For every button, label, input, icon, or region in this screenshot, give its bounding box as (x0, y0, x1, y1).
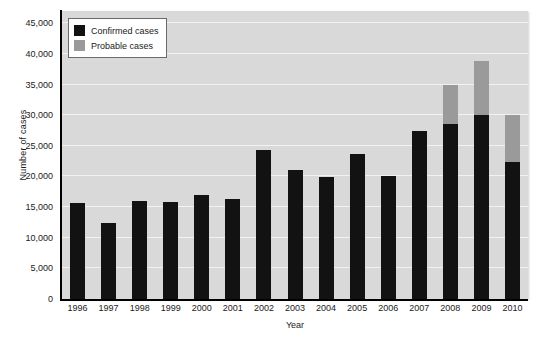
x-tick-label: 2001 (223, 303, 243, 313)
bar-segment-confirmed (163, 202, 178, 299)
bar-2006 (381, 176, 396, 299)
bar-2010 (505, 115, 520, 299)
bar-1998 (132, 201, 147, 299)
y-tick-label: 0 (48, 294, 53, 304)
legend-item-confirmed: Confirmed cases (74, 23, 159, 38)
y-tick-label: 30,000 (25, 110, 53, 120)
x-tick-label: 2000 (192, 303, 212, 313)
y-tick-label: 10,000 (25, 233, 53, 243)
legend-label-probable: Probable cases (91, 41, 153, 51)
bar-2002 (256, 150, 271, 299)
y-tick-label: 15,000 (25, 202, 53, 212)
legend-swatch-confirmed-icon (74, 25, 85, 36)
bar-segment-confirmed (443, 124, 458, 299)
gridline (62, 114, 528, 115)
bar-1997 (101, 223, 116, 299)
bar-1999 (163, 202, 178, 299)
x-axis-tick-labels: 1996199719981999200020012002200320042005… (62, 303, 528, 317)
x-tick-label: 2007 (409, 303, 429, 313)
bar-segment-confirmed (381, 176, 396, 299)
bar-2007 (412, 131, 427, 300)
bar-segment-confirmed (194, 195, 209, 299)
bar-segment-probable (443, 85, 458, 125)
y-tick-label: 20,000 (25, 171, 53, 181)
bar-segment-confirmed (101, 223, 116, 299)
legend-swatch-probable-icon (74, 40, 85, 51)
bar-segment-confirmed (70, 203, 85, 299)
gridline (62, 84, 528, 85)
bar-segment-confirmed (350, 154, 365, 299)
bar-2009 (474, 61, 489, 299)
x-axis-line (60, 299, 528, 301)
chart-figure: Number of cases 05,00010,00015,00020,000… (0, 0, 538, 339)
legend-item-probable: Probable cases (74, 38, 159, 53)
y-axis-tick-labels: 05,00010,00015,00020,00025,00030,00035,0… (0, 0, 57, 339)
bar-segment-confirmed (256, 150, 271, 299)
bar-segment-probable (474, 61, 489, 115)
bar-segment-confirmed (412, 131, 427, 300)
legend-label-confirmed: Confirmed cases (91, 26, 159, 36)
chart-legend: Confirmed cases Probable cases (68, 18, 167, 58)
x-tick-label: 2006 (378, 303, 398, 313)
x-tick-label: 2002 (254, 303, 274, 313)
y-tick-label: 40,000 (25, 49, 53, 59)
x-tick-label: 2008 (440, 303, 460, 313)
x-tick-label: 1997 (99, 303, 119, 313)
bar-segment-confirmed (288, 170, 303, 299)
y-tick-label: 5,000 (30, 263, 53, 273)
bar-segment-confirmed (132, 201, 147, 299)
x-tick-label: 1999 (161, 303, 181, 313)
bar-2005 (350, 154, 365, 299)
gridline (62, 145, 528, 146)
bar-segment-confirmed (474, 115, 489, 299)
bar-2001 (225, 199, 240, 299)
bar-2008 (443, 85, 458, 299)
x-tick-label: 1998 (130, 303, 150, 313)
bar-2003 (288, 170, 303, 299)
x-tick-label: 2003 (285, 303, 305, 313)
bar-segment-confirmed (225, 199, 240, 299)
bar-segment-probable (505, 115, 520, 162)
x-tick-label: 2005 (347, 303, 367, 313)
x-tick-label: 1996 (68, 303, 88, 313)
x-tick-label: 2010 (502, 303, 522, 313)
x-tick-label: 2004 (316, 303, 336, 313)
bar-segment-confirmed (505, 162, 520, 299)
y-tick-label: 45,000 (25, 18, 53, 28)
bar-segment-confirmed (319, 177, 334, 299)
y-tick-label: 35,000 (25, 80, 53, 90)
x-tick-label: 2009 (471, 303, 491, 313)
bar-2000 (194, 195, 209, 299)
bar-1996 (70, 203, 85, 299)
x-axis-title: Year (62, 320, 528, 330)
y-tick-label: 25,000 (25, 141, 53, 151)
bar-2004 (319, 177, 334, 299)
